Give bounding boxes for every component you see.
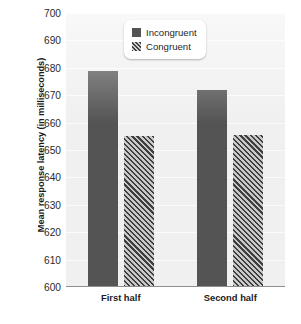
bar-incongruent-first-half [88,71,118,287]
y-axis-tick-label: 610 [30,254,61,265]
legend-swatch-hatched-icon [132,42,141,51]
chart-legend: Incongruent Congruent [124,20,206,59]
legend-label-congruent: Congruent [146,41,191,52]
y-axis-tick-label: 600 [30,282,61,293]
y-axis-tick-label: 620 [30,227,61,238]
bar-chart-figure: Mean response latency (in milliseconds) … [0,0,301,324]
x-axis-tick-labels: First halfSecond half [66,292,285,310]
gridline [66,68,285,69]
y-axis-tick-label: 660 [30,117,61,128]
legend-item-incongruent: Incongruent [132,25,197,39]
y-axis-tick-label: 680 [30,62,61,73]
y-axis-tick-label: 630 [30,199,61,210]
y-axis-tick-label: 640 [30,172,61,183]
y-axis-tick-label: 650 [30,145,61,156]
y-axis-tick-label: 700 [30,8,61,19]
bar-congruent-second-half [233,135,263,287]
x-axis-tick-label: Second half [204,292,257,303]
legend-item-congruent: Congruent [132,39,197,53]
y-axis-tick-labels: 700690680670660650640630620610600 [30,13,61,287]
gridline [66,13,285,14]
legend-swatch-solid-icon [132,28,141,37]
bar-incongruent-second-half [197,90,227,287]
x-axis-line [66,286,285,287]
x-axis-tick-label: First half [101,292,141,303]
y-axis-tick-label: 690 [30,35,61,46]
y-axis-tick-label: 670 [30,90,61,101]
legend-label-incongruent: Incongruent [146,27,197,38]
bar-congruent-first-half [124,136,154,287]
